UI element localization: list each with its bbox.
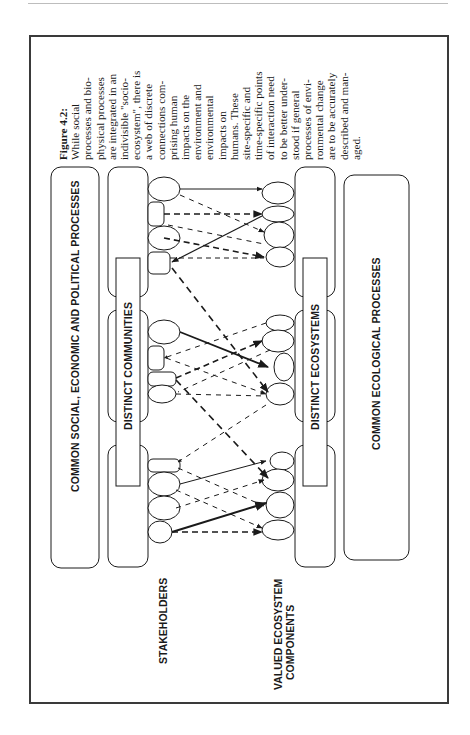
figure-number: Figure 4.2: bbox=[57, 10, 69, 160]
stakeholder-shapes bbox=[148, 177, 180, 543]
caption-line: While social bbox=[69, 10, 81, 160]
valued-component-shapes bbox=[262, 182, 294, 540]
caption-line: described and man- bbox=[338, 10, 350, 160]
common-social-label: COMMON SOCIAL, ECONOMIC AND POLITICAL PR… bbox=[69, 180, 81, 492]
caption-line: connections com- bbox=[155, 10, 167, 160]
caption-line: a web of discrete bbox=[142, 10, 154, 160]
caption-line: are integrated in an bbox=[106, 10, 118, 160]
caption-line: environmental bbox=[203, 10, 215, 160]
caption-line: aged. bbox=[350, 10, 362, 160]
caption-line: processes and bio- bbox=[81, 10, 93, 160]
caption-line: humans. These bbox=[228, 10, 240, 160]
caption-line: impacts on bbox=[216, 10, 228, 160]
caption-line: site-specific and bbox=[240, 10, 252, 160]
figure-caption: Figure 4.2: While social processes and b… bbox=[57, 10, 362, 160]
caption-line: environment and bbox=[191, 10, 203, 160]
caption-line: prising human bbox=[167, 10, 179, 160]
caption-line: physical processes bbox=[94, 10, 106, 160]
valued-ecosystem-label-line2: COMPONENTS bbox=[284, 605, 296, 680]
distinct-communities-label: DISTINCT COMMUNITIES bbox=[122, 302, 134, 430]
stakeholders-label: STAKEHOLDERS bbox=[157, 578, 169, 664]
caption-line: indivisible "socio- bbox=[118, 10, 130, 160]
caption-line: of interaction need bbox=[264, 10, 276, 160]
valued-ecosystem-label-line1: VALUED ECOSYSTEM bbox=[272, 579, 284, 690]
common-ecological-label: COMMON ECOLOGICAL PROCESSES bbox=[370, 257, 382, 450]
distinct-ecosystems-label: DISTINCT ECOSYSTEMS bbox=[309, 304, 321, 430]
caption-line: impacts on the bbox=[179, 10, 191, 160]
caption-line: are to be accurately bbox=[325, 10, 337, 160]
caption-line: time-specific points bbox=[252, 10, 264, 160]
caption-line: ecosystem", there is bbox=[130, 10, 142, 160]
caption-line: stood if general bbox=[289, 10, 301, 160]
caption-line: processes of envi- bbox=[301, 10, 313, 160]
caption-line: to be better under- bbox=[277, 10, 289, 160]
caption-line: ronmental change bbox=[313, 10, 325, 160]
